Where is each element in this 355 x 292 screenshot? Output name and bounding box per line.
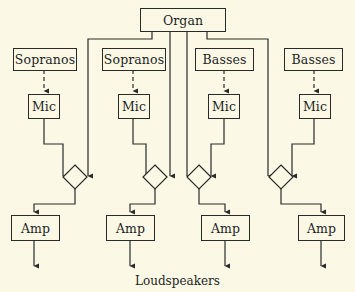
mic-box-1: Mic <box>28 94 60 119</box>
amp-label: Amp <box>116 221 145 236</box>
amp-box-3: Amp <box>201 215 250 241</box>
amp-box-1: Amp <box>11 215 60 241</box>
voice-label: Basses <box>203 52 247 67</box>
amp-label: Amp <box>307 221 336 236</box>
voice-label: Basses <box>292 52 336 67</box>
voice-box-2: Sopranos <box>102 48 166 71</box>
mic-box-4: Mic <box>299 94 331 119</box>
voice-box-4: Basses <box>284 48 343 71</box>
mic-box-3: Mic <box>208 94 240 119</box>
mixer-diamond-3 <box>187 165 211 189</box>
voice-box-3: Basses <box>195 48 254 71</box>
voice-box-1: Sopranos <box>13 48 77 71</box>
amp-box-2: Amp <box>106 215 155 241</box>
mic-box-2: Mic <box>118 94 150 119</box>
voice-label: Sopranos <box>104 52 164 67</box>
mixer-diamond-4 <box>269 165 293 189</box>
amp-box-4: Amp <box>298 215 345 241</box>
mic-label: Mic <box>303 99 327 114</box>
amp-label: Amp <box>211 221 240 236</box>
organ-label: Organ <box>163 13 203 28</box>
loudspeakers-caption: Loudspeakers <box>0 274 355 288</box>
mic-label: Mic <box>32 99 56 114</box>
voice-label: Sopranos <box>15 52 75 67</box>
mic-label: Mic <box>212 99 236 114</box>
amp-label: Amp <box>21 221 50 236</box>
organ-box: Organ <box>140 8 226 32</box>
connector-lines <box>0 0 355 292</box>
mixer-diamond-1 <box>63 165 87 189</box>
mic-label: Mic <box>122 99 146 114</box>
